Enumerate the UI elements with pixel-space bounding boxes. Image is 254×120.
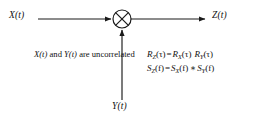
eq1-rhs2-arg: (τ)	[203, 49, 213, 59]
note-suffix: are	[77, 49, 90, 59]
note-line2: uncorrelated	[92, 49, 135, 59]
equation-psd: SZ(f)=SX(f)∗SY(f)	[147, 62, 214, 76]
block-diagram-canvas: X(t) Z(t) Y(t) X(t) and Y(t) are uncorre…	[0, 0, 254, 120]
multiplier-icon	[113, 10, 131, 28]
eq1-lhs-arg: (τ)	[156, 49, 166, 59]
equation-autocorrelation: RZ(τ)=RX(τ)RY(τ)	[147, 48, 214, 62]
input-label-x: X(t)	[9, 11, 24, 21]
output-label-z: Z(t)	[212, 11, 227, 21]
eq2-rhs1-arg: (f)	[179, 63, 188, 73]
note-var-b: Y(t)	[64, 49, 77, 59]
input-label-y: Y(t)	[112, 102, 127, 112]
eq2-rhs2-arg: (f)	[205, 63, 214, 73]
eq1-operator: =	[166, 49, 173, 59]
eq2-lhs-arg: (f)	[155, 63, 164, 73]
eq2-joiner: ∗	[188, 63, 197, 73]
uncorrelated-note: X(t) and Y(t) are uncorrelated	[34, 49, 138, 60]
eq2-operator: =	[164, 63, 171, 73]
note-var-a: X(t)	[34, 49, 47, 59]
equation-block: RZ(τ)=RX(τ)RY(τ) SZ(f)=SX(f)∗SY(f)	[147, 48, 214, 75]
note-conjunction: and	[47, 49, 64, 59]
